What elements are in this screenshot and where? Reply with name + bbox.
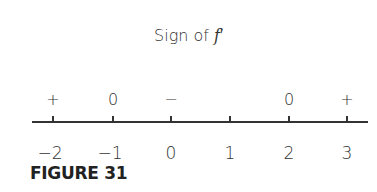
tick-label: −2 bbox=[30, 143, 70, 163]
tick-mark bbox=[52, 116, 54, 122]
sign-label: 0 bbox=[98, 90, 128, 109]
number-line-axis bbox=[32, 121, 368, 123]
tick-mark bbox=[170, 116, 172, 122]
sign-label: + bbox=[332, 90, 362, 109]
diagram-title: Sign of f′ bbox=[0, 26, 377, 45]
title-prime: ′ bbox=[220, 26, 223, 45]
tick-mark bbox=[288, 116, 290, 122]
tick-mark bbox=[229, 116, 231, 122]
sign-label: − bbox=[156, 90, 186, 109]
sign-label: 0 bbox=[274, 90, 304, 109]
tick-label: 0 bbox=[151, 143, 191, 163]
tick-label: 1 bbox=[210, 143, 250, 163]
tick-mark bbox=[112, 116, 114, 122]
tick-label: −1 bbox=[90, 143, 130, 163]
sign-label: + bbox=[38, 90, 68, 109]
title-prefix: Sign of bbox=[154, 26, 214, 45]
tick-mark bbox=[346, 116, 348, 122]
tick-label: 3 bbox=[327, 143, 367, 163]
figure-caption: FIGURE 31 bbox=[30, 163, 127, 183]
tick-label: 2 bbox=[269, 143, 309, 163]
